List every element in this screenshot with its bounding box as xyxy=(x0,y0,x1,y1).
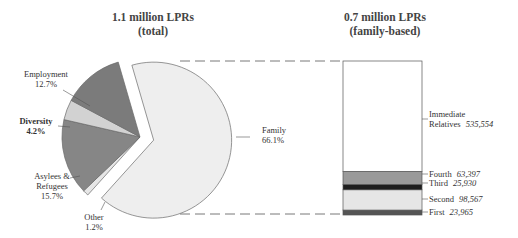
bar-label-value-second: 98,567 xyxy=(459,194,483,204)
bar-label-name-immediate-relatives: Relatives535,554 xyxy=(429,119,494,129)
bar-segment-second xyxy=(343,190,422,210)
bar-label-name-first: First23,965 xyxy=(429,207,473,217)
pie-label-pct-other: 1.2% xyxy=(85,222,103,232)
lpr-chart: 1.1 million LPRs (total) 0.7 million LPR… xyxy=(0,0,518,238)
bar-label-immediate-relatives: ImmediateRelatives535,554 xyxy=(422,109,494,129)
pie-label-other: Other1.2% xyxy=(84,202,105,232)
pie-label-pct-employment: 12.7% xyxy=(35,79,57,89)
pie-label-pct-family: 66.1% xyxy=(262,135,284,145)
bar-segment-third xyxy=(343,184,422,189)
bar-label-name-second: Second98,567 xyxy=(429,194,483,204)
pie-subtitle: (total) xyxy=(138,25,168,38)
bar-segment-first xyxy=(343,210,422,215)
bar-label-third: Third25,930 xyxy=(422,178,477,188)
pie-label-pct-asylees-refugees: 15.7% xyxy=(41,191,63,201)
bar-segment-immediate-relatives xyxy=(343,61,422,171)
pie-label-name-other: Other xyxy=(84,212,104,222)
bar-label-first: First23,965 xyxy=(422,207,473,217)
bar-label-fourth: Fourth63,397 xyxy=(422,169,481,179)
stacked-bar-group xyxy=(343,61,422,215)
bar-segment-fourth xyxy=(343,171,422,184)
pie-leader-other xyxy=(101,202,105,210)
bar-label-value-third: 25,930 xyxy=(453,178,477,188)
bar-subtitle: (family-based) xyxy=(350,25,421,38)
pie-label-name-employment: Employment xyxy=(24,69,69,79)
pie-label-name-asylees-refugees: Refugees xyxy=(36,181,68,191)
pie-label-name-diversity: Diversity xyxy=(19,116,53,126)
bar-labels: First23,965Second98,567Third25,930Fourth… xyxy=(422,109,494,217)
bar-label-value-fourth: 63,397 xyxy=(457,169,481,179)
bar-label-second: Second98,567 xyxy=(422,194,483,204)
bar-label-value-immediate-relatives: 535,554 xyxy=(466,119,494,129)
bar-title: 0.7 million LPRs xyxy=(344,11,427,23)
pie-title: 1.1 million LPRs xyxy=(112,11,195,23)
pie-group xyxy=(62,62,232,218)
pie-label-pct-diversity: 4.2% xyxy=(26,126,45,136)
bar-label-name-immediate-relatives: Immediate xyxy=(429,109,466,119)
pie-label-name-asylees-refugees: Asylees & xyxy=(34,171,70,181)
bar-label-name-third: Third25,930 xyxy=(429,178,477,188)
pie-label-name-family: Family xyxy=(262,125,287,135)
bar-label-value-first: 23,965 xyxy=(450,207,473,217)
pie-label-family: Family66.1% xyxy=(236,125,287,145)
